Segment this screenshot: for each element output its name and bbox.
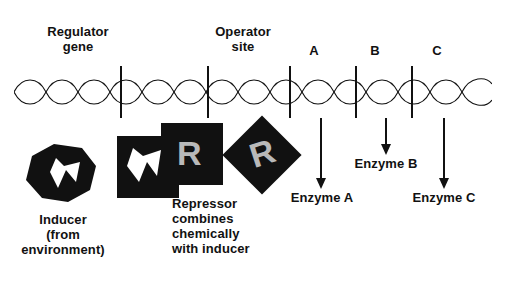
label-gene-a: A — [300, 43, 328, 58]
inducer-shape — [24, 142, 100, 204]
arrow-head-enzyme-b — [381, 144, 391, 155]
label-gene-c: C — [423, 43, 451, 58]
dna-tick-2 — [207, 66, 209, 118]
arrow-line-enzyme-a — [320, 118, 322, 180]
dna-tick-1 — [120, 66, 122, 118]
arrow-head-enzyme-c — [439, 178, 449, 189]
arrow-line-enzyme-b — [385, 118, 387, 146]
label-repressor-combines: Repressor combines chemically with induc… — [172, 196, 302, 256]
arrow-head-enzyme-a — [316, 178, 326, 189]
dna-double-helix — [14, 72, 492, 112]
label-enzyme-c: Enzyme C — [408, 190, 480, 205]
label-inducer: Inducer (from environment) — [14, 212, 112, 257]
repressor-letter-r: R — [177, 136, 202, 170]
arrow-line-enzyme-c — [443, 118, 445, 180]
diagram-canvas: Regulator gene Operator site A B C Enzym… — [0, 0, 506, 307]
dna-tick-4 — [355, 66, 357, 118]
label-regulator-gene: Regulator gene — [30, 24, 126, 54]
label-gene-b: B — [361, 43, 389, 58]
dna-tick-5 — [411, 66, 413, 118]
dna-tick-3 — [289, 66, 291, 118]
label-enzyme-b: Enzyme B — [350, 156, 422, 171]
label-operator-site: Operator site — [195, 24, 291, 54]
